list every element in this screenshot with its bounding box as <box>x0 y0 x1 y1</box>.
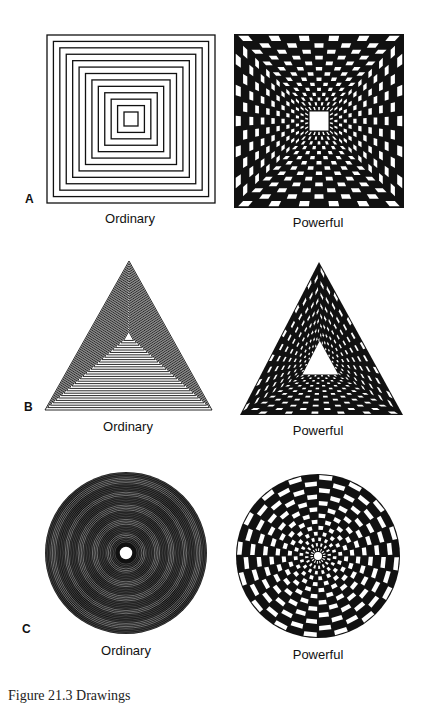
ordinary-square-drawing <box>47 35 215 203</box>
powerful-label-a: Powerful <box>293 215 344 230</box>
row-label-b: B <box>24 400 33 414</box>
ordinary-label-b: Ordinary <box>103 419 153 434</box>
powerful-label-c: Powerful <box>293 647 344 662</box>
row-label-a: A <box>25 192 34 206</box>
powerful-circle-drawing <box>236 474 400 638</box>
ordinary-label-a: Ordinary <box>105 211 155 226</box>
powerful-triangle-drawing <box>240 262 403 415</box>
row-label-c: C <box>22 622 31 636</box>
ordinary-triangle-drawing <box>45 261 212 410</box>
powerful-label-b: Powerful <box>293 423 344 438</box>
figure-caption: Figure 21.3 Drawings <box>8 688 131 704</box>
ordinary-label-c: Ordinary <box>101 643 151 658</box>
ordinary-circle-drawing <box>45 472 207 634</box>
powerful-square-drawing <box>234 34 404 208</box>
